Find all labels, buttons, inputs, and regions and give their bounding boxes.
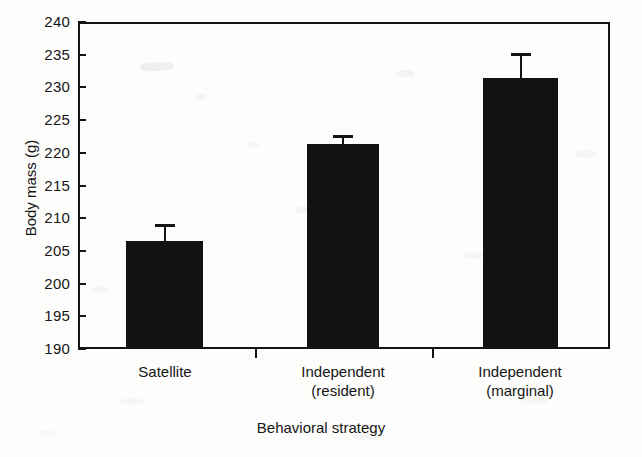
x-axis-category-label: Satellite [75,362,255,381]
x-axis-tick-mark [432,349,434,358]
error-bar-stem [164,224,166,247]
y-axis-tick-label: 210 [26,210,70,225]
y-axis-tick-label: 240 [26,14,70,29]
y-axis-tick-label: 215 [26,178,70,193]
bar [126,241,203,349]
x-axis-category-label-line: Independent [430,362,610,381]
error-bar-cap [333,135,353,138]
error-bar-cap [155,224,175,227]
x-axis-category-label: Independent(marginal) [430,362,610,400]
x-axis-category-label-line: (resident) [253,381,433,400]
y-axis-tick-label: 190 [26,341,70,356]
y-axis-tick-label: 235 [26,47,70,62]
x-axis-category-label-line: Independent [253,362,433,381]
error-bar-cap [511,53,531,56]
bar-chart: Body mass (g) 24023523022522021521020520… [0,0,642,457]
y-axis-tick-label: 230 [26,79,70,94]
y-axis-tick-label: 195 [26,308,70,323]
y-axis-tick-label: 220 [26,145,70,160]
y-axis-tick-label: 205 [26,243,70,258]
x-axis-title: Behavioral strategy [0,419,642,436]
x-axis-category-label: Independent(resident) [253,362,433,400]
x-axis-category-label-line: Satellite [75,362,255,381]
x-axis-category-label-line: (marginal) [430,381,610,400]
bar [307,144,379,349]
x-axis-tick-mark [255,349,257,358]
y-axis-tick-label: 225 [26,112,70,127]
bar [483,78,558,349]
error-bar-stem [520,53,522,84]
y-axis-tick-label: 200 [26,276,70,291]
